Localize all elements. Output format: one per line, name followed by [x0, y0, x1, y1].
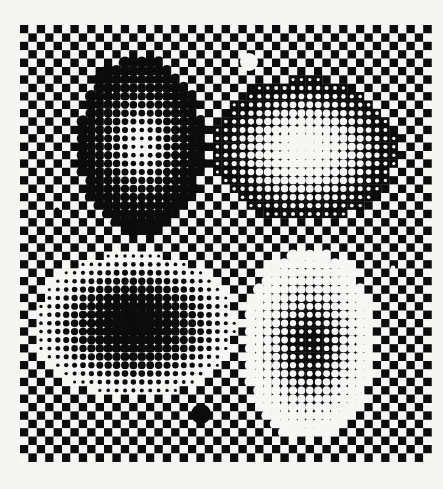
op-art-canvas — [0, 0, 443, 489]
